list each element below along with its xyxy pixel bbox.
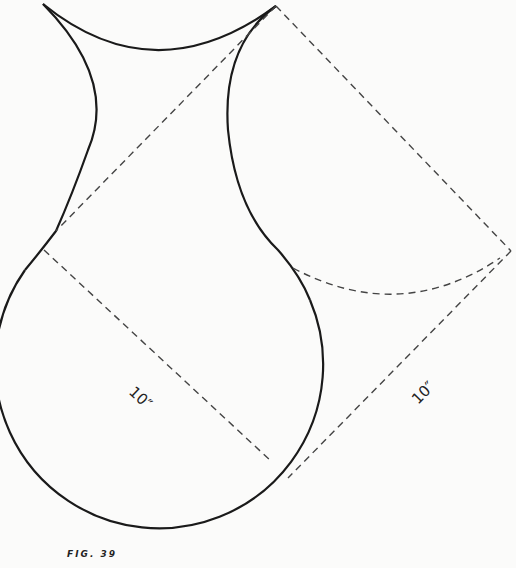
dashed-square-top-right	[276, 6, 511, 251]
vase-pattern-diagram: 10″ 10″	[0, 0, 516, 568]
vase-lip-curve	[43, 4, 276, 50]
dashed-diameter-10in	[44, 250, 272, 462]
vase-outline	[0, 4, 323, 528]
dashed-arc	[293, 258, 500, 294]
vase-right-neck	[227, 6, 310, 300]
construction-lines	[44, 6, 511, 478]
dimension-label-right: 10″	[408, 377, 438, 407]
dashed-square-bottom-right	[288, 251, 511, 478]
vase-body-circle	[0, 270, 323, 528]
vase-left-neck	[25, 4, 97, 270]
figure-caption: FIG. 39	[67, 549, 117, 559]
dimension-label-left: 10″	[125, 383, 156, 413]
